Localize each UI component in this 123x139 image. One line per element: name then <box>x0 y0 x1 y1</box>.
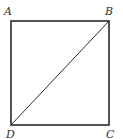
vertex-label-b: B <box>104 5 113 18</box>
vertex-label-d: D <box>5 128 15 139</box>
square-diagram: A B C D <box>0 0 123 139</box>
vertex-label-c: C <box>106 128 115 139</box>
diagonal-bd <box>11 21 109 125</box>
vertex-label-a: A <box>3 5 12 18</box>
